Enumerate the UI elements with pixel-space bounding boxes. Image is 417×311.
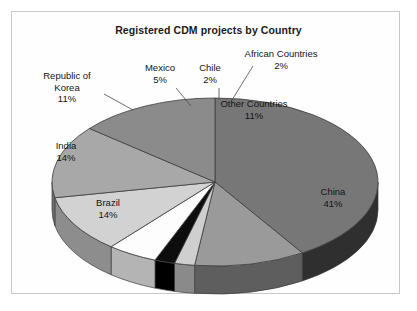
slice-label-mexico: Mexico 5%: [133, 62, 187, 85]
slice-label-china-name: China: [321, 186, 346, 197]
slice-label-brazil: Brazil 14%: [83, 197, 133, 220]
chart-figure: Registered CDM projects by Country Repub…: [0, 0, 417, 311]
slice-label-india-name: India: [56, 140, 77, 151]
slice-label-korea-line2: Korea: [54, 82, 79, 93]
slice-pct-china: 41%: [306, 198, 360, 210]
pie-top-faces: [52, 98, 378, 266]
pie-side-african-countries: [174, 263, 194, 293]
leader-line-korea: [104, 94, 133, 110]
leader-line-african: [232, 66, 253, 100]
slice-label-other-name: Other Countries: [220, 98, 287, 109]
slice-pct-korea: 11%: [28, 93, 106, 105]
slice-label-african-name: African Countries: [245, 48, 318, 59]
slice-label-chile: Chile 2%: [190, 62, 230, 85]
slice-label-brazil-name: Brazil: [96, 197, 120, 208]
slice-pct-mexico: 5%: [133, 74, 187, 86]
slice-pct-brazil: 14%: [83, 209, 133, 221]
slice-label-chile-name: Chile: [199, 62, 221, 73]
slice-label-african-countries: African Countries 2%: [228, 48, 334, 71]
slice-pct-chile: 2%: [190, 74, 230, 86]
slice-label-other-countries: Other Countries 11%: [206, 98, 302, 121]
slice-pct-india: 14%: [42, 152, 90, 164]
slice-pct-other: 11%: [206, 110, 302, 122]
slice-label-china: China 41%: [306, 186, 360, 209]
pie-side-chile: [155, 260, 174, 291]
slice-pct-african: 2%: [228, 60, 334, 72]
slice-label-republic-of-korea: Republic of Korea 11%: [28, 70, 106, 105]
slice-label-mexico-name: Mexico: [145, 62, 175, 73]
slice-label-india: India 14%: [42, 140, 90, 163]
slice-label-korea-line1: Republic of: [43, 70, 91, 81]
